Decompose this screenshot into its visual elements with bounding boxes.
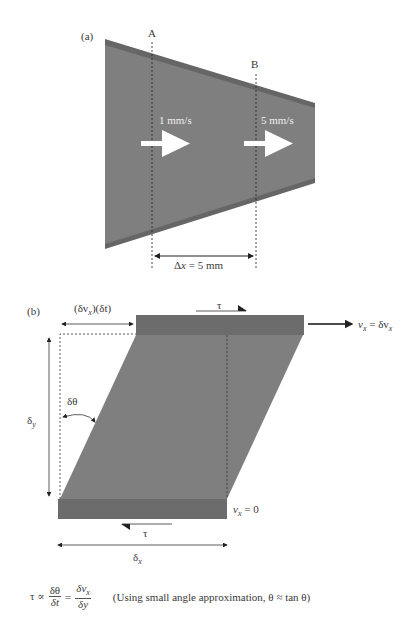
shear-element xyxy=(58,315,304,519)
equation-lhs: τ ∝ xyxy=(30,590,45,603)
height-label: δy xyxy=(27,415,36,429)
angle-arrow xyxy=(63,414,95,422)
bottom-velocity-label: vx = 0 xyxy=(233,504,259,518)
panel-b-label: (b) xyxy=(27,306,40,317)
shear-equation: τ ∝ δθ δt = δvx δy (Using small angle ap… xyxy=(30,583,310,610)
fraction-dtheta-dt: δθ δt xyxy=(49,585,61,609)
bottom-plate xyxy=(58,499,227,519)
displacement-label: (δvx)(δt) xyxy=(74,303,111,317)
velocity-a-label: 1 mm/s xyxy=(159,115,192,126)
diagram-canvas xyxy=(0,0,414,617)
delta-x-label: Δx = 5 mm xyxy=(174,260,223,271)
tau-top-arrow xyxy=(196,305,247,311)
fraction-dv-dy: δvx δy xyxy=(75,583,91,610)
approximation-note: (Using small angle approximation, θ ≈ ta… xyxy=(113,591,310,603)
velocity-b-label: 5 mm/s xyxy=(261,115,294,126)
width-label: δx xyxy=(133,552,142,566)
panel-a-label: (a) xyxy=(81,31,93,42)
section-a-label: A xyxy=(148,28,156,39)
angle-label: δθ xyxy=(67,396,77,407)
top-plate xyxy=(136,315,304,335)
tau-bottom-label: τ xyxy=(143,528,147,539)
top-velocity-label: vx = δvx xyxy=(358,319,392,333)
section-b-label: B xyxy=(251,59,258,70)
tau-top-label: τ xyxy=(217,300,221,311)
